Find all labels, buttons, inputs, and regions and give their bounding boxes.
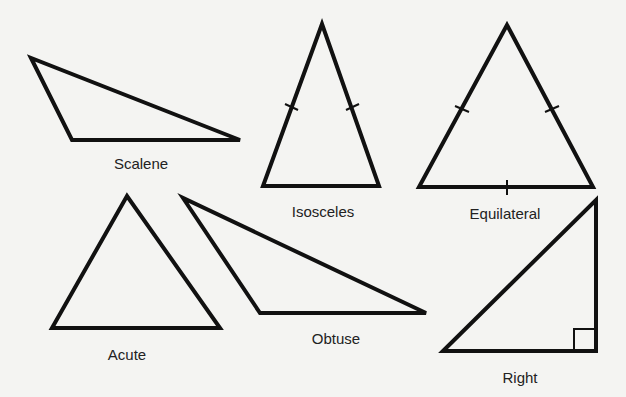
- right-angle-marker: [574, 329, 596, 351]
- isosceles-triangle: [263, 24, 379, 186]
- label-obtuse: Obtuse: [312, 330, 360, 347]
- label-scalene: Scalene: [114, 155, 168, 172]
- label-equilateral: Equilateral: [470, 205, 541, 222]
- label-acute: Acute: [108, 346, 146, 363]
- label-right: Right: [502, 369, 537, 386]
- equilateral-triangle: [419, 25, 593, 187]
- label-isosceles: Isosceles: [292, 203, 355, 220]
- scalene-triangle: [31, 58, 240, 140]
